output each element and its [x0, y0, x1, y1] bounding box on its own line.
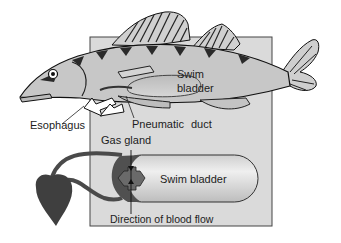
- label-esophagus: Esophagus: [30, 119, 85, 131]
- swim-bladder-diagram: Swim bladder Esophagus Pneumatic duct Ga…: [0, 0, 341, 243]
- fish-illustration: [20, 12, 319, 124]
- label-swim-bladder-lower: Swim bladder: [160, 173, 227, 185]
- label-gas-gland: Gas gland: [101, 134, 151, 146]
- label-pneumatic: Pneumatic: [132, 118, 184, 130]
- label-duct: duct: [191, 118, 212, 130]
- label-swim-bladder-upper-1: Swim: [177, 68, 204, 80]
- label-swim-bladder-upper-2: bladder: [177, 82, 214, 94]
- heart-icon: [36, 174, 73, 226]
- label-blood-flow: Direction of blood flow: [110, 213, 213, 225]
